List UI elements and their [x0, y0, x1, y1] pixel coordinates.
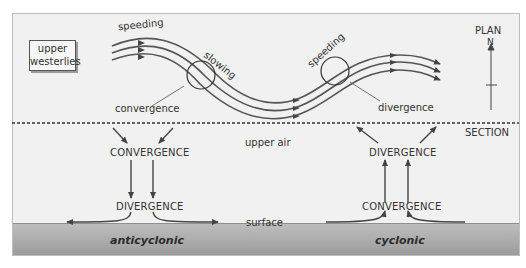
upper-air-label: upper air — [245, 138, 291, 148]
anticyclonic-label: anticyclonic — [110, 235, 184, 246]
cyclonic-label: cyclonic — [375, 235, 425, 246]
north-arrow-icon — [486, 44, 497, 110]
box-label-line2: westerlies — [30, 55, 75, 68]
upper-westerlies-box: upper westerlies — [29, 40, 76, 71]
anticyclonic-convergence-label: CONVERGENCE — [110, 148, 190, 158]
convergence-label: convergence — [115, 104, 179, 114]
divergence-label: divergence — [378, 103, 434, 113]
surface-label: surface — [246, 218, 283, 228]
section-title: SECTION — [465, 128, 509, 138]
north-label: N — [487, 38, 494, 47]
anticyclonic-divergence-label: DIVERGENCE — [116, 202, 184, 212]
box-label-line1: upper — [30, 42, 75, 55]
plan-title: PLAN — [475, 26, 501, 36]
cyclonic-divergence-label: DIVERGENCE — [369, 148, 437, 158]
cyclonic-convergence-label: CONVERGENCE — [362, 202, 442, 212]
